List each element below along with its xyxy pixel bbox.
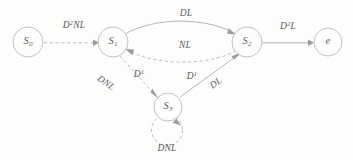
edge-s2-to-e bbox=[262, 40, 314, 46]
edge-s2-to-s1-lower-arrowhead bbox=[125, 49, 134, 55]
edge-label-s0-s1: D2NL bbox=[63, 20, 86, 30]
edge-label-s2-s1-lower: NL bbox=[179, 40, 191, 50]
edge-label-s3-self-loop: DNL bbox=[157, 143, 176, 153]
edge-s1-to-s2-upper-path bbox=[125, 21, 234, 34]
edge-s1-to-s3-arrowhead bbox=[151, 89, 159, 99]
node-e-label: e bbox=[326, 36, 331, 48]
diagram-canvas: S0 S1 S2 e S3 D2NL DL NL D2L DNL D1 D1 D… bbox=[0, 0, 353, 160]
node-S1-label: S1 bbox=[109, 36, 118, 48]
edge-label-s2-e: D2L bbox=[280, 21, 296, 31]
edge-s1-to-s2-upper bbox=[125, 21, 236, 34]
node-S0-label: S0 bbox=[24, 36, 33, 48]
edge-s2-to-e-arrowhead bbox=[308, 40, 314, 46]
node-S3-label: S3 bbox=[164, 101, 173, 113]
edge-label-s3-s2-d1: D1 bbox=[187, 71, 198, 81]
node-S2-label: S2 bbox=[243, 36, 252, 48]
edge-s2-to-s1-lower-path bbox=[127, 50, 236, 62]
edge-label-s1-s2-upper: DL bbox=[180, 8, 193, 18]
state-diagram-graphic bbox=[0, 0, 353, 160]
edge-s0-to-s1 bbox=[44, 40, 99, 46]
edge-label-s1-s3-d1: D1 bbox=[134, 69, 145, 79]
edge-s2-to-s1-lower bbox=[125, 49, 236, 62]
